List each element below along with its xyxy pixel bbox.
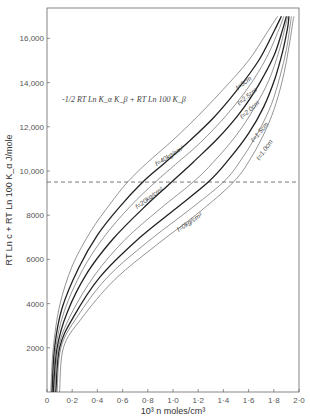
x-tick-label: 1·2 (192, 396, 204, 405)
curve-series (51, 16, 294, 392)
curve-label: ℓ=1.0cm (254, 138, 274, 163)
y-axis-ticks: 200040006000800010,00012,00014,00016,000 (20, 34, 50, 352)
curve-line (52, 16, 281, 392)
x-tick-label: 2·0 (293, 396, 305, 405)
annotation-formula: -1/2 RT Ln K_α K_β + RT Ln 100 K_β (62, 95, 186, 104)
y-tick-label: 2000 (26, 344, 44, 353)
x-axis-title: 10³ n moles/cm³ (141, 406, 206, 416)
y-tick-label: 8000 (26, 211, 44, 220)
y-tick-label: 6000 (26, 255, 44, 264)
curve-line (55, 16, 288, 392)
y-tick-label: 16,000 (20, 34, 45, 43)
x-tick-label: 1·4 (218, 396, 230, 405)
x-tick-label: 0·6 (117, 396, 129, 405)
plot-border (47, 8, 299, 392)
curve-label: f=0kg/cm² (175, 211, 204, 234)
x-tick-label: 0·2 (66, 396, 78, 405)
y-tick-label: 4000 (26, 300, 44, 309)
x-tick-label: 1·0 (167, 396, 179, 405)
curve-label: f=40kg/cm² (154, 144, 186, 168)
x-tick-label: 0 (45, 396, 50, 405)
curve-line (60, 16, 294, 392)
y-axis-title: RT Ln c + RT Ln 100 K_α J/mole (4, 135, 14, 266)
y-tick-label: 10,000 (20, 167, 45, 176)
curve-line (57, 16, 291, 392)
curve-line (53, 16, 286, 392)
y-tick-label: 12,000 (20, 123, 45, 132)
y-tick-label: 14,000 (20, 79, 45, 88)
curve-line (56, 16, 289, 392)
x-axis-ticks: 00·20·40·60·81·01·21·41·61·82·0 (45, 389, 306, 405)
x-tick-label: 1·6 (243, 396, 255, 405)
x-tick-label: 1·8 (268, 396, 280, 405)
plot-frame (47, 8, 299, 392)
curve-line (51, 16, 278, 392)
x-tick-label: 0·8 (142, 396, 154, 405)
curve-line (53, 16, 284, 392)
chart: 00·20·40·60·81·01·21·41·61·82·0 20004000… (0, 0, 310, 419)
x-tick-label: 0·4 (92, 396, 104, 405)
